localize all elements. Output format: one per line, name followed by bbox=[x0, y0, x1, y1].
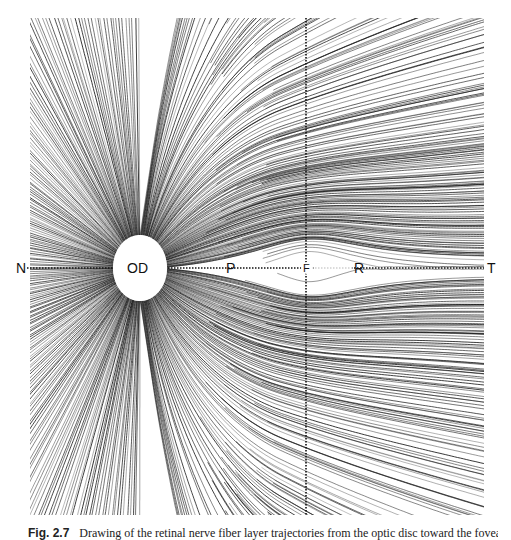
label-temporal: T bbox=[487, 261, 496, 275]
label-nasal: N bbox=[16, 261, 26, 275]
caption-text: Drawing of the retinal nerve fiber layer… bbox=[79, 526, 498, 540]
figure-number: Fig. 2.7 bbox=[28, 526, 69, 540]
figure-caption: Fig. 2.7Drawing of the retinal nerve fib… bbox=[28, 526, 498, 540]
label-papillomacular: P bbox=[226, 261, 235, 275]
label-optic-disc: OD bbox=[127, 261, 148, 275]
label-fovea: F bbox=[303, 261, 310, 275]
nerve-fiber-lines bbox=[22, 10, 492, 523]
label-raphe: R bbox=[354, 261, 364, 275]
